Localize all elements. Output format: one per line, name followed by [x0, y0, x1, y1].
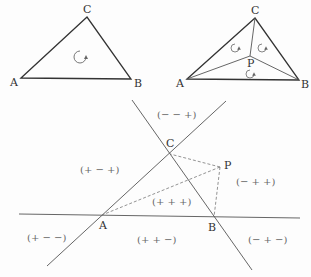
vertex-label-b: B: [208, 221, 216, 234]
region-label-bottom-left: (+ − −): [27, 232, 66, 243]
vertex-label-a: A: [175, 77, 185, 90]
diagram-canvas: C A B C A B P C P A B (− − +) (+ − +) (−…: [0, 0, 311, 277]
region-label-bottom-middle: (+ + −): [137, 234, 176, 245]
vertex-label-a: A: [9, 76, 19, 89]
vertex-label-c: C: [83, 3, 91, 16]
region-label-top: (− − +): [157, 109, 196, 120]
vertex-label-c: C: [166, 137, 174, 150]
region-label-bottom-right: (− + −): [248, 234, 287, 245]
region-label-right: (− + +): [236, 176, 275, 187]
diagram-svg: C A B C A B P C P A B (− − +) (+ − +) (−…: [0, 0, 311, 277]
vertex-label-b: B: [301, 78, 309, 91]
figure3-lines: C P A B (− − +) (+ − +) (− + +) (+ + +) …: [19, 100, 300, 270]
counterclockwise-arrow-icon: [74, 51, 86, 63]
vertex-label-p: P: [224, 159, 232, 172]
vertex-label-p: P: [247, 57, 255, 70]
counterclockwise-arrow-icon: [231, 44, 239, 52]
figure2-triangle: C A B P: [175, 4, 309, 91]
region-label-left: (+ − +): [80, 164, 119, 175]
vertex-label-b: B: [134, 77, 142, 90]
vertex-label-a: A: [98, 219, 108, 232]
counterclockwise-arrow-icon: [258, 44, 266, 52]
figure1-triangle: C A B: [9, 3, 142, 90]
counterclockwise-arrow-icon: [246, 70, 254, 78]
region-label-center: (+ + +): [152, 196, 191, 207]
vertex-label-c: C: [251, 4, 259, 17]
